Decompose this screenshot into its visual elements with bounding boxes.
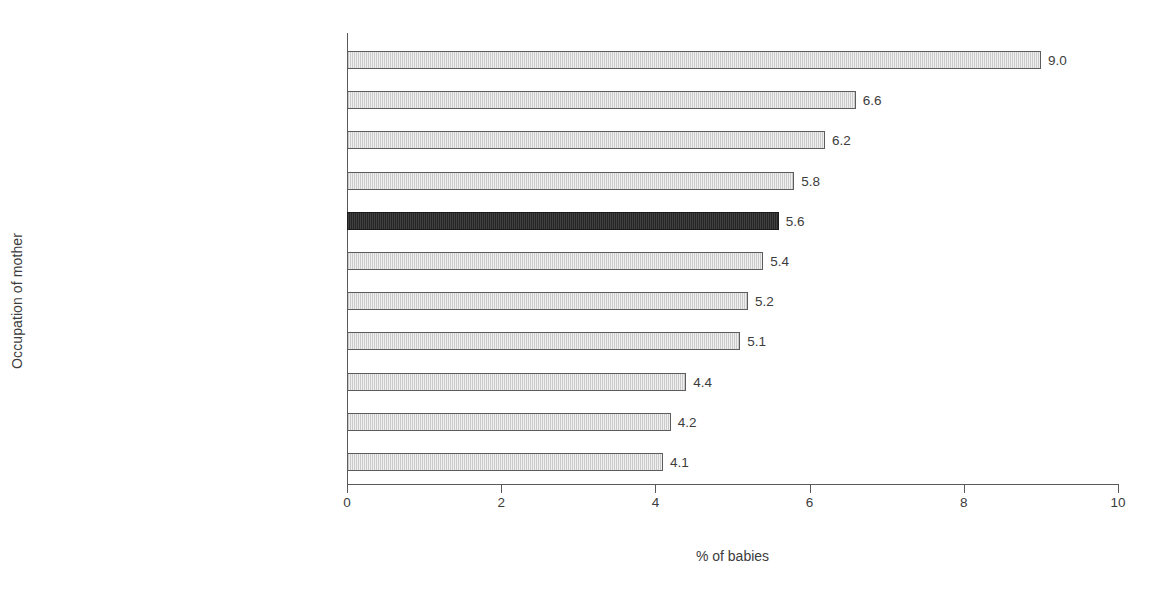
x-tick xyxy=(964,485,965,493)
bar xyxy=(347,453,663,471)
bar xyxy=(347,292,748,310)
x-tick-label: 8 xyxy=(934,495,994,510)
bar-highlighted xyxy=(347,212,779,230)
x-tick xyxy=(1118,485,1119,493)
x-tick-label: 0 xyxy=(317,495,377,510)
bar-row: 5.4 xyxy=(347,252,1118,270)
bar-value-label: 5.6 xyxy=(786,212,805,230)
x-tick xyxy=(810,485,811,493)
x-axis-line xyxy=(347,484,1119,485)
plot-area: 9.06.66.25.85.65.45.25.14.44.24.1 024681… xyxy=(347,33,1118,484)
x-tick-label: 2 xyxy=(471,495,531,510)
bar-value-label: 6.6 xyxy=(863,91,882,109)
bar-row: 4.2 xyxy=(347,413,1118,431)
bar-row: 6.2 xyxy=(347,131,1118,149)
bar-value-label: 5.2 xyxy=(755,292,774,310)
x-tick xyxy=(347,485,348,493)
bar-value-label: 4.1 xyxy=(670,453,689,471)
bar xyxy=(347,332,740,350)
bar-value-label: 5.4 xyxy=(770,252,789,270)
x-tick xyxy=(501,485,502,493)
bar xyxy=(347,172,794,190)
bar-value-label: 4.2 xyxy=(678,413,697,431)
bar-row: 9.0 xyxy=(347,51,1118,69)
x-tick-label: 4 xyxy=(625,495,685,510)
x-tick-label: 6 xyxy=(780,495,840,510)
bar xyxy=(347,373,686,391)
y-axis-title: Occupation of mother xyxy=(0,0,34,602)
x-tick xyxy=(655,485,656,493)
x-tick-label: 10 xyxy=(1088,495,1148,510)
bar xyxy=(347,131,825,149)
bar-row: 5.1 xyxy=(347,332,1118,350)
bar-value-label: 4.4 xyxy=(693,373,712,391)
bar-row: 5.6 xyxy=(347,212,1118,230)
bar xyxy=(347,252,763,270)
bar xyxy=(347,413,671,431)
bar-row: 4.1 xyxy=(347,453,1118,471)
bar xyxy=(347,91,856,109)
bar-value-label: 6.2 xyxy=(832,131,851,149)
bar-value-label: 5.8 xyxy=(801,172,820,190)
bar xyxy=(347,51,1041,69)
bar-row: 5.2 xyxy=(347,292,1118,310)
bar-value-label: 5.1 xyxy=(747,332,766,350)
bar-row: 5.8 xyxy=(347,172,1118,190)
bar-row: 6.6 xyxy=(347,91,1118,109)
horizontal-bar-chart: Occupation of mother 9.06.66.25.85.65.45… xyxy=(0,0,1153,602)
x-axis-title: % of babies xyxy=(347,548,1118,564)
bar-row: 4.4 xyxy=(347,373,1118,391)
bar-value-label: 9.0 xyxy=(1048,51,1067,69)
